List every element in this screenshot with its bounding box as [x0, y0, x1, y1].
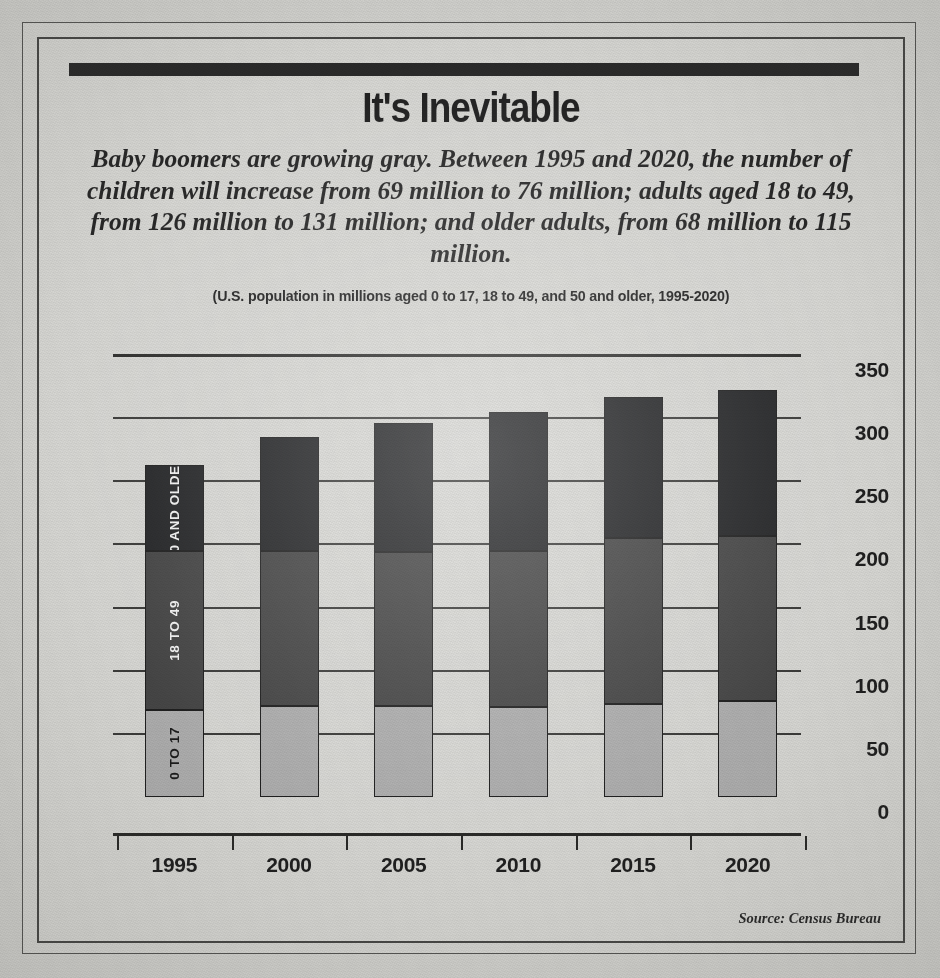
x-axis-year-2000: 2000 — [234, 853, 344, 877]
x-axis-tick-4 — [690, 836, 692, 850]
series-label-wrap: 18 TO 49 — [146, 552, 203, 709]
bar-segment-2015-0-to-17[interactable] — [604, 704, 663, 797]
bar-segment-2020-18-to-49[interactable] — [718, 536, 777, 701]
bar-group-2020[interactable] — [718, 390, 777, 797]
y-tick-label-0: 0 — [809, 800, 889, 824]
x-axis-line — [113, 833, 801, 836]
bar-group-2015[interactable] — [604, 397, 663, 797]
bar-series-container: 0 TO 1718 TO 4950 AND OLDER — [113, 350, 801, 836]
x-axis-year-2015: 2015 — [578, 853, 688, 877]
series-label-50-and-older: 50 AND OLDER — [167, 465, 182, 551]
bar-segment-2015-50-and-older[interactable] — [604, 397, 663, 538]
bar-segment-2005-50-and-older[interactable] — [374, 423, 433, 552]
x-axis-year-2020: 2020 — [693, 853, 803, 877]
source-attribution: Source: Census Bureau — [738, 910, 881, 927]
x-axis-tick-3 — [576, 836, 578, 850]
bar-segment-2010-50-and-older[interactable] — [489, 412, 548, 551]
bar-group-2000[interactable] — [260, 437, 319, 797]
x-axis-tick-5 — [805, 836, 807, 850]
y-tick-label-100: 100 — [809, 674, 889, 698]
bar-segment-2020-50-and-older[interactable] — [718, 390, 777, 535]
y-tick-label-250: 250 — [809, 484, 889, 508]
y-tick-label-350: 350 — [809, 358, 889, 382]
bar-segment-2000-50-and-older[interactable] — [260, 437, 319, 551]
bar-segment-1995-18-to-49[interactable]: 18 TO 49 — [145, 551, 204, 710]
series-label-wrap: 0 TO 17 — [146, 711, 203, 796]
subtitle-text: Baby boomers are growing gray. Between 1… — [81, 143, 861, 269]
y-tick-label-200: 200 — [809, 547, 889, 571]
x-axis-year-2005: 2005 — [349, 853, 459, 877]
series-label-wrap: 50 AND OLDER — [146, 466, 203, 550]
bar-segment-2005-0-to-17[interactable] — [374, 706, 433, 797]
inner-frame: It's Inevitable Baby boomers are growing… — [37, 37, 905, 943]
bar-group-2010[interactable] — [489, 412, 548, 797]
title-rule — [69, 63, 859, 76]
bar-segment-2010-0-to-17[interactable] — [489, 707, 548, 797]
y-tick-label-150: 150 — [809, 611, 889, 635]
bar-segment-1995-50-and-older[interactable]: 50 AND OLDER — [145, 465, 204, 551]
x-axis-tick-1 — [346, 836, 348, 850]
series-label-0-to-17: 0 TO 17 — [167, 727, 182, 780]
bar-segment-2000-18-to-49[interactable] — [260, 551, 319, 706]
page-title: It's Inevitable — [99, 83, 842, 132]
x-axis-tick-2 — [461, 836, 463, 850]
bar-segment-1995-0-to-17[interactable]: 0 TO 17 — [145, 710, 204, 797]
bar-segment-2005-18-to-49[interactable] — [374, 552, 433, 706]
bar-segment-2000-0-to-17[interactable] — [260, 706, 319, 797]
chart-plot-area: 0 TO 1718 TO 4950 AND OLDER 050100150200… — [113, 350, 801, 836]
bar-segment-2010-18-to-49[interactable] — [489, 551, 548, 708]
bar-group-1995[interactable]: 0 TO 1718 TO 4950 AND OLDER — [145, 465, 204, 797]
chart-caption: (U.S. population in millions aged 0 to 1… — [80, 287, 863, 304]
infographic-content: It's Inevitable Baby boomers are growing… — [39, 39, 903, 941]
y-tick-label-300: 300 — [809, 421, 889, 445]
bar-segment-2015-18-to-49[interactable] — [604, 538, 663, 703]
bar-segment-2020-0-to-17[interactable] — [718, 701, 777, 797]
series-label-18-to-49: 18 TO 49 — [167, 600, 182, 661]
y-tick-label-50: 50 — [809, 737, 889, 761]
x-axis-tick-origin — [117, 836, 119, 850]
x-axis-tick-0 — [232, 836, 234, 850]
bar-group-2005[interactable] — [374, 423, 433, 797]
x-axis-year-1995: 1995 — [119, 853, 229, 877]
x-axis-year-2010: 2010 — [463, 853, 573, 877]
outer-frame: It's Inevitable Baby boomers are growing… — [22, 22, 916, 954]
